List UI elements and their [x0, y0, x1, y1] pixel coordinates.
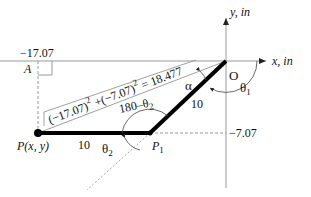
P1-label: P1 [151, 139, 164, 155]
point-P-label: P(x, y) [16, 139, 49, 153]
right-angle-marker [38, 61, 52, 75]
x-axis-label: x, in [271, 54, 293, 68]
link1-extension [87, 133, 150, 190]
alpha-arc [200, 71, 206, 80]
distance-formula: (−17.07)2 +(−7.07)2 = 18.477 [45, 61, 184, 127]
link2-length: 10 [78, 138, 90, 152]
origin-label: O [229, 68, 238, 83]
y-coord-label: −7.07 [229, 126, 257, 140]
point-A-label: A [23, 62, 32, 76]
alpha-label: α [185, 78, 192, 93]
two-link-arm-diagram: y, in x, in O −17.07 A −7.07 P(x, y) 10 … [0, 0, 311, 197]
x-coord-label: −17.07 [20, 46, 54, 60]
point-P [34, 129, 42, 137]
joint-P1 [148, 131, 153, 136]
theta2-label: θ2 [102, 141, 113, 158]
link1-length: 10 [191, 97, 203, 111]
y-axis-label: y, in [229, 5, 250, 19]
